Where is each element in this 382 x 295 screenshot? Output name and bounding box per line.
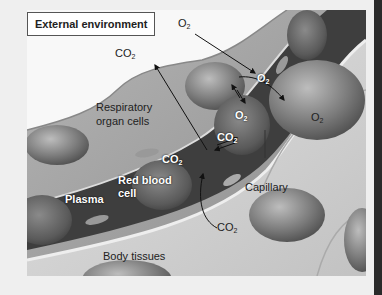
label-o2-capillary-1: O2: [257, 73, 269, 85]
label-co2-tissue: CO2: [217, 222, 237, 234]
label-co2-capillary-rbc: CO2: [217, 132, 237, 144]
label-co2-external: CO2: [115, 48, 135, 60]
label-plasma: Plasma: [65, 194, 104, 205]
label-respiratory-organ-cells: Respiratory organ cells: [96, 100, 152, 128]
window-border: [374, 0, 382, 295]
gas-exchange-diagram: External environment O2 CO2 Respiratory …: [27, 10, 366, 276]
label-capillary: Capillary: [245, 182, 288, 193]
label-o2-external: O2: [178, 18, 190, 30]
label-body-tissues: Body tissues: [103, 251, 165, 262]
label-red-blood-cell: Red blood cell: [118, 174, 172, 200]
title-external-environment: External environment: [27, 12, 155, 36]
label-o2-tissue: O2: [311, 112, 323, 124]
label-o2-capillary-2: O2: [235, 110, 247, 122]
diagram-illustration: [27, 10, 366, 276]
label-co2-capillary-plasma: CO2: [162, 154, 182, 166]
